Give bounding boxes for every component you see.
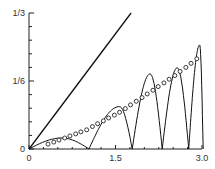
circle-marker xyxy=(167,77,171,81)
circle-marker xyxy=(46,142,50,146)
circle-marker xyxy=(52,140,56,144)
straight-line xyxy=(29,13,131,149)
circle-marker xyxy=(101,119,105,123)
circle-marker xyxy=(57,138,61,142)
x-tick-label: 0 xyxy=(26,153,31,163)
circle-marker xyxy=(79,130,83,134)
y-tick-label: 0 xyxy=(20,144,25,154)
circle-marker xyxy=(107,116,111,120)
circle-marker xyxy=(118,110,122,114)
circle-marker xyxy=(128,103,132,107)
circle-marker xyxy=(156,85,160,89)
circle-marker xyxy=(162,81,166,85)
circle-marker xyxy=(184,65,188,69)
circle-marker xyxy=(140,96,144,100)
circle-marker xyxy=(173,74,177,78)
circle-marker xyxy=(63,136,67,140)
circle-marker xyxy=(90,125,94,129)
x-tick-label: 1.5 xyxy=(109,153,122,163)
circle-marker xyxy=(189,61,193,65)
circle-marker xyxy=(85,128,89,132)
chart: 01.53.001/61/3 xyxy=(0,0,215,169)
circle-marker xyxy=(68,134,72,138)
circle-marker xyxy=(96,122,100,126)
circle-marker xyxy=(151,88,155,92)
arch-curve xyxy=(89,107,132,149)
circle-marker xyxy=(145,92,149,96)
straight-line-series xyxy=(29,13,131,149)
arches-series xyxy=(29,45,203,149)
circle-markers-series xyxy=(46,57,199,146)
circle-marker xyxy=(178,69,182,73)
circle-marker xyxy=(134,99,138,103)
circle-marker xyxy=(74,132,78,136)
circle-marker xyxy=(123,107,127,111)
tick-labels: 01.53.001/61/3 xyxy=(12,8,208,163)
circle-marker xyxy=(112,113,116,117)
y-tick-label: 1/6 xyxy=(12,76,25,86)
x-tick-label: 3.0 xyxy=(196,153,209,163)
circle-marker xyxy=(195,57,199,61)
y-tick-label: 1/3 xyxy=(12,8,25,18)
arch-curve xyxy=(162,68,189,149)
